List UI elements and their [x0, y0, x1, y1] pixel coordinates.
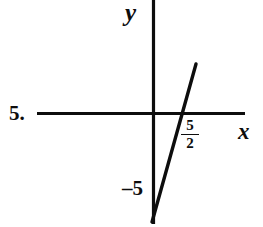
problem-number: 5.: [9, 103, 25, 124]
math-figure: 5. y x –5 5 2: [0, 0, 263, 227]
x-axis-label: x: [238, 120, 250, 143]
x-intercept-fraction-label: 5 2: [181, 118, 199, 152]
fraction-numerator: 5: [181, 118, 199, 133]
fraction-denominator: 2: [181, 136, 199, 151]
y-axis-label: y: [125, 0, 136, 25]
y-intercept-label: –5: [122, 178, 143, 199]
